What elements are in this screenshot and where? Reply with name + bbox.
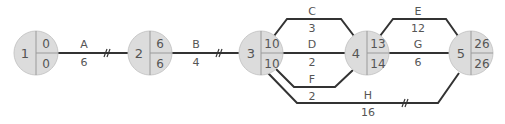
activity-a-name: A [80,38,88,51]
activity-b-duration: 4 [193,56,200,69]
node-3: 3 10 10 [239,31,283,75]
activity-e-name: E [415,5,422,18]
activity-f-name: F [309,73,315,86]
node-4: 4 13 14 [345,31,389,75]
activity-g-duration: 6 [415,56,422,69]
node-2: 2 6 6 [128,31,172,75]
node-3-earliest: 10 [264,37,279,51]
activity-c-duration: 3 [309,22,316,35]
node-1-latest: 0 [42,57,50,71]
activity-a-duration: 6 [81,56,88,69]
activity-c-name: C [308,5,316,18]
node-4-id: 4 [352,46,360,61]
activity-h-name: H [364,89,372,102]
node-4-latest: 14 [370,57,385,71]
node-2-id: 2 [135,46,143,61]
activity-e-duration: 12 [411,22,425,35]
activity-d-duration: 2 [309,56,316,69]
node-5-latest: 26 [474,57,489,71]
node-5: 5 26 26 [449,31,493,75]
activity-g-name: G [414,38,423,51]
activity-d-name: D [308,38,316,51]
node-2-latest: 6 [156,57,164,71]
node-2-earliest: 6 [156,37,164,51]
node-1: 1 0 0 [14,31,58,75]
activity-b-name: B [192,38,200,51]
activity-h-duration: 16 [361,106,375,119]
node-4-earliest: 13 [370,37,385,51]
node-1-id: 1 [21,46,29,61]
node-3-latest: 10 [264,57,279,71]
node-1-earliest: 0 [42,37,50,51]
node-3-id: 3 [247,46,255,61]
activity-f-duration: 2 [309,90,316,103]
activity-network-diagram: A 6 B 4 C 3 D 2 F 2 E 12 G 6 H 16 1 0 0 … [0,0,505,124]
node-5-earliest: 26 [474,37,489,51]
node-5-id: 5 [457,46,465,61]
